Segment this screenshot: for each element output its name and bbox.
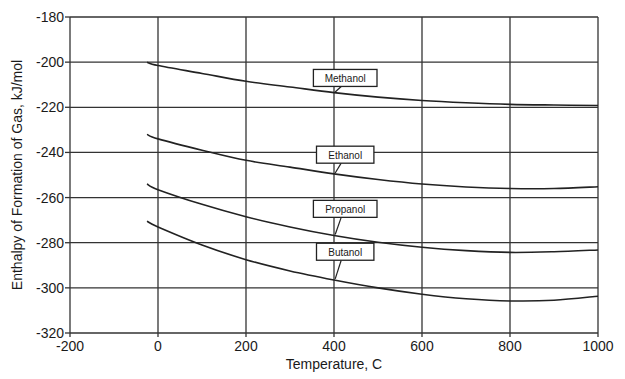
series-labels: MethanolEthanolPropanolButanol: [313, 69, 377, 278]
enthalpy-chart: -180-200-220-240-260-280-300-320-2000200…: [0, 0, 625, 379]
series-label-butanol: Butanol: [328, 247, 362, 258]
y-tick-label: -260: [36, 190, 64, 206]
x-tick-label: 600: [410, 338, 434, 354]
series-label-propanol: Propanol: [325, 204, 365, 215]
series-line-butanol: [147, 221, 598, 301]
x-tick-label: -200: [56, 338, 84, 354]
leader-line: [335, 217, 341, 234]
y-tick-label: -200: [36, 54, 64, 70]
series-lines: [147, 62, 598, 301]
series-label-ethanol: Ethanol: [328, 150, 362, 161]
y-axis-label: Enthalpy of Formation of Gas, kJ/mol: [9, 60, 25, 290]
y-tick-label: -280: [36, 235, 64, 251]
axes: -180-200-220-240-260-280-300-320-2000200…: [36, 9, 614, 354]
x-tick-label: 1000: [582, 338, 613, 354]
y-tick-label: -220: [36, 99, 64, 115]
x-tick-label: 800: [498, 338, 522, 354]
x-tick-label: 0: [154, 338, 162, 354]
y-tick-label: -300: [36, 280, 64, 296]
leader-line: [335, 260, 341, 279]
leader-line: [335, 86, 341, 91]
x-tick-label: 400: [322, 338, 346, 354]
y-tick-label: -240: [36, 144, 64, 160]
leader-line: [335, 163, 341, 173]
y-tick-label: -180: [36, 9, 64, 25]
x-axis-label: Temperature, C: [286, 356, 382, 372]
series-label-methanol: Methanol: [325, 73, 366, 84]
x-tick-label: 200: [234, 338, 258, 354]
grid-lines: [70, 17, 598, 333]
